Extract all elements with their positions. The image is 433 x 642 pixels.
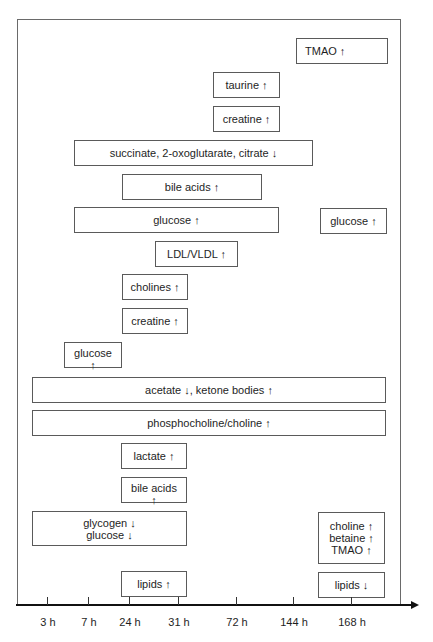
metabolite-box-succinate: succinate, 2-oxoglutarate, citrate ↓ bbox=[74, 140, 313, 166]
metabolite-box-taurine: taurine ↑ bbox=[213, 72, 280, 98]
axis-tick bbox=[47, 597, 48, 605]
metabolite-box-lipids-up: lipids ↑ bbox=[121, 571, 187, 597]
metabolite-box-lactate: lactate ↑ bbox=[121, 443, 187, 469]
axis-tick bbox=[88, 597, 89, 605]
axis-tick-label: 144 h bbox=[280, 616, 308, 628]
axis-tick bbox=[351, 597, 352, 605]
metabolite-box-phosphocholine: phosphocholine/choline ↑ bbox=[32, 410, 386, 436]
metabolite-box-bile-acids-1: bile acids ↑ bbox=[122, 174, 262, 200]
axis-tick-label: 168 h bbox=[338, 616, 366, 628]
axis-arrow-icon bbox=[411, 601, 419, 609]
axis-tick-label: 3 h bbox=[40, 616, 55, 628]
metabolite-box-glucose-1: glucose ↑ bbox=[74, 207, 279, 233]
metabolite-box-tmao-1: TMAO ↑ bbox=[296, 38, 388, 64]
metabolite-box-glucose-2: glucose ↑ bbox=[320, 208, 387, 234]
metabolite-box-glycogen-glucose: glycogen ↓ glucose ↓ bbox=[32, 511, 187, 546]
metabolite-box-creatine-2: creatine ↑ bbox=[122, 308, 188, 334]
axis-tick-label: 24 h bbox=[119, 616, 140, 628]
axis-tick bbox=[293, 597, 294, 605]
metabolite-box-creatine-1: creatine ↑ bbox=[213, 106, 280, 132]
metabolite-box-cholines: cholines ↑ bbox=[122, 274, 188, 300]
metabolite-box-choline-betaine-tmao: choline ↑ betaine ↑ TMAO ↑ bbox=[318, 512, 385, 564]
metabolite-box-ldl-vldl: LDL/VLDL ↑ bbox=[155, 241, 238, 267]
metabolite-box-acetate: acetate ↓, ketone bodies ↑ bbox=[32, 377, 386, 403]
axis-tick-label: 72 h bbox=[226, 616, 247, 628]
metabolite-box-lipids-down: lipids ↓ bbox=[318, 572, 385, 598]
metabolite-box-glucose-3: glucose ↑ bbox=[64, 342, 122, 368]
time-axis bbox=[16, 604, 412, 606]
metabolite-box-bile-acids-2: bile acids ↑ bbox=[121, 477, 187, 503]
axis-tick bbox=[129, 597, 130, 605]
axis-tick bbox=[236, 597, 237, 605]
axis-tick bbox=[178, 597, 179, 605]
axis-tick-label: 31 h bbox=[168, 616, 189, 628]
axis-tick-label: 7 h bbox=[81, 616, 96, 628]
